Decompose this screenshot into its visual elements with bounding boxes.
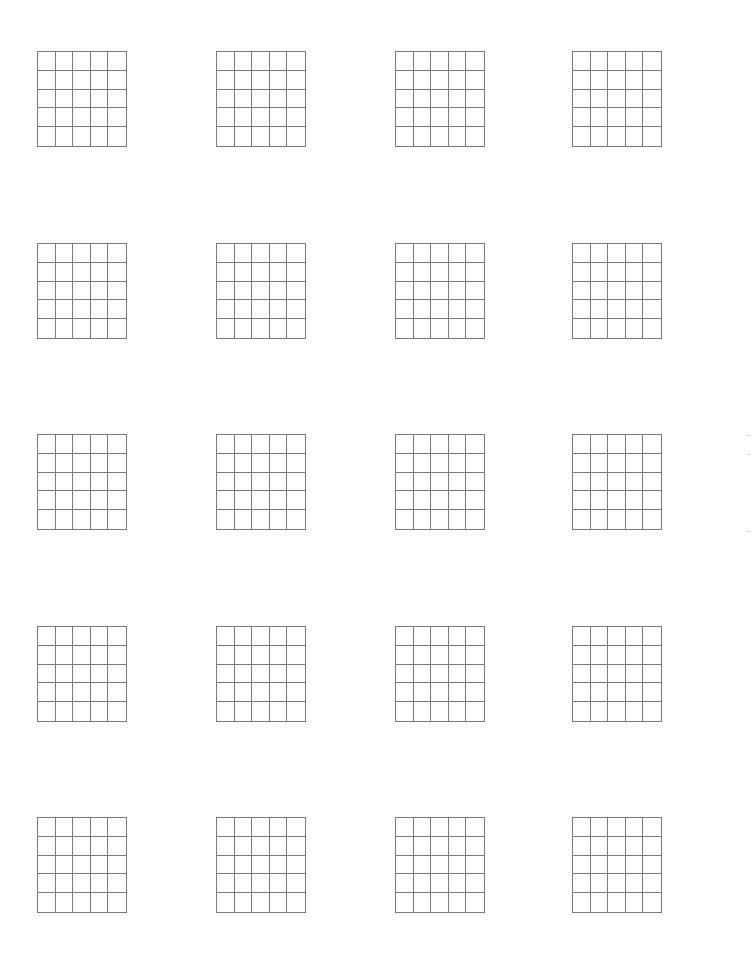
grid-cell bbox=[643, 702, 661, 721]
grid-cell bbox=[270, 52, 288, 71]
grid-cell bbox=[608, 263, 626, 282]
grid-cell bbox=[396, 627, 414, 646]
grid-cell bbox=[217, 473, 235, 492]
grid-cell bbox=[449, 263, 467, 282]
grid-cell bbox=[573, 300, 591, 319]
grid-cell bbox=[252, 665, 270, 684]
grid-cell bbox=[56, 244, 74, 263]
grid-cell bbox=[449, 702, 467, 721]
grid-cell bbox=[466, 435, 484, 454]
grid-cell bbox=[466, 108, 484, 127]
grid-cell bbox=[217, 263, 235, 282]
grid-cell bbox=[449, 837, 467, 856]
grid-cell bbox=[591, 818, 609, 837]
grid-cell bbox=[235, 71, 253, 90]
grid-cell bbox=[466, 837, 484, 856]
grid-cell bbox=[643, 473, 661, 492]
grid-cell bbox=[414, 510, 432, 529]
grid-cell bbox=[466, 491, 484, 510]
grid-cell bbox=[235, 263, 253, 282]
grid-cell bbox=[91, 90, 109, 109]
grid-cell bbox=[466, 263, 484, 282]
grid-cell bbox=[573, 874, 591, 893]
grid-cell bbox=[217, 893, 235, 912]
blank-grid-3-2 bbox=[216, 434, 306, 530]
grid-cell bbox=[643, 282, 661, 301]
grid-cell bbox=[287, 52, 305, 71]
grid-cell bbox=[466, 856, 484, 875]
grid-cell bbox=[431, 818, 449, 837]
grid-cell bbox=[108, 665, 126, 684]
grid-cell bbox=[91, 300, 109, 319]
grid-cell bbox=[91, 627, 109, 646]
grid-cell bbox=[235, 491, 253, 510]
grid-cell bbox=[466, 683, 484, 702]
grid-cell bbox=[643, 665, 661, 684]
grid-cell bbox=[414, 665, 432, 684]
grid-cell bbox=[643, 683, 661, 702]
grid-cell bbox=[217, 90, 235, 109]
grid-cell bbox=[287, 683, 305, 702]
grid-cell bbox=[608, 874, 626, 893]
grid-cell bbox=[73, 90, 91, 109]
grid-cell bbox=[449, 52, 467, 71]
grid-cell bbox=[396, 127, 414, 146]
grid-cell bbox=[235, 300, 253, 319]
grid-cell bbox=[56, 856, 74, 875]
grid-cell bbox=[396, 282, 414, 301]
grid-cell bbox=[235, 683, 253, 702]
grid-cell bbox=[270, 300, 288, 319]
grid-cell bbox=[608, 627, 626, 646]
grid-cell bbox=[591, 874, 609, 893]
grid-cell bbox=[396, 90, 414, 109]
grid-cell bbox=[466, 665, 484, 684]
grid-cell bbox=[643, 837, 661, 856]
grid-cell bbox=[643, 71, 661, 90]
edge-tick-mark bbox=[747, 454, 751, 455]
grid-cell bbox=[431, 893, 449, 912]
grid-cell bbox=[449, 454, 467, 473]
grid-cell bbox=[108, 646, 126, 665]
grid-cell bbox=[252, 856, 270, 875]
grid-cell bbox=[608, 702, 626, 721]
grid-cell bbox=[466, 244, 484, 263]
grid-cell bbox=[270, 837, 288, 856]
grid-cell bbox=[573, 108, 591, 127]
grid-cell bbox=[431, 71, 449, 90]
grid-cell bbox=[38, 473, 56, 492]
grid-cell bbox=[73, 665, 91, 684]
grid-cell bbox=[626, 510, 644, 529]
grid-cell bbox=[431, 263, 449, 282]
grid-cell bbox=[449, 893, 467, 912]
grid-cell bbox=[235, 473, 253, 492]
grid-cell bbox=[396, 491, 414, 510]
grid-cell bbox=[252, 491, 270, 510]
grid-cell bbox=[449, 108, 467, 127]
grid-cell bbox=[626, 856, 644, 875]
grid-cell bbox=[449, 90, 467, 109]
grid-cell bbox=[287, 893, 305, 912]
grid-cell bbox=[287, 510, 305, 529]
grid-cell bbox=[252, 627, 270, 646]
grid-cell bbox=[643, 491, 661, 510]
grid-cell bbox=[626, 665, 644, 684]
grid-cell bbox=[73, 435, 91, 454]
grid-cell bbox=[235, 627, 253, 646]
blank-grid-3-4 bbox=[572, 434, 662, 530]
grid-cell bbox=[252, 818, 270, 837]
grid-cell bbox=[235, 856, 253, 875]
grid-cell bbox=[73, 473, 91, 492]
grid-cell bbox=[217, 665, 235, 684]
grid-cell bbox=[466, 818, 484, 837]
grid-cell bbox=[396, 683, 414, 702]
grid-cell bbox=[591, 491, 609, 510]
grid-cell bbox=[73, 646, 91, 665]
grid-cell bbox=[73, 491, 91, 510]
grid-cell bbox=[108, 108, 126, 127]
blank-grid-2-2 bbox=[216, 243, 306, 339]
grid-cell bbox=[108, 491, 126, 510]
grid-cell bbox=[414, 874, 432, 893]
grid-cell bbox=[414, 127, 432, 146]
grid-cell bbox=[396, 702, 414, 721]
grid-cell bbox=[608, 108, 626, 127]
